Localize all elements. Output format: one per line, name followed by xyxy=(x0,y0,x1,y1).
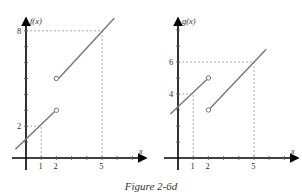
figure-caption: Figure 2-6d xyxy=(0,180,302,192)
x-axis-label: x xyxy=(290,146,295,156)
x-tick-label: 2 xyxy=(54,161,58,171)
guide-5-8 xyxy=(26,31,102,158)
segment-upper xyxy=(58,18,114,79)
y-tick-label: 4 xyxy=(169,89,174,99)
y-tick-label: 6 xyxy=(169,57,173,67)
x-axis-label: x xyxy=(138,146,143,156)
open-endpoint xyxy=(54,108,58,112)
y-tick-label: 2 xyxy=(17,121,21,131)
guide-1-4 xyxy=(178,94,193,158)
x-tick-label: 1 xyxy=(39,161,43,171)
y-axis-label: g(x) xyxy=(182,16,196,26)
segment-upper-left xyxy=(170,80,206,114)
x-tick-label: 2 xyxy=(206,161,210,171)
guide-5-6 xyxy=(178,62,254,158)
graph-g: g(x) x 1 2 5 4 6 xyxy=(164,16,298,171)
open-endpoint xyxy=(206,108,210,112)
x-tick-label: 5 xyxy=(99,161,103,171)
x-tick-label: 1 xyxy=(191,161,195,171)
segment-lower-right xyxy=(210,49,266,108)
open-endpoint xyxy=(206,76,210,80)
graph-f: f(x) x 1 2 5 2 8 xyxy=(12,16,146,171)
y-tick-label: 8 xyxy=(17,26,21,36)
open-endpoint xyxy=(54,76,58,80)
x-tick-label: 5 xyxy=(251,161,255,171)
figure-canvas: f(x) x 1 2 5 2 8 xyxy=(0,0,302,195)
y-axis-label: f(x) xyxy=(30,16,42,26)
